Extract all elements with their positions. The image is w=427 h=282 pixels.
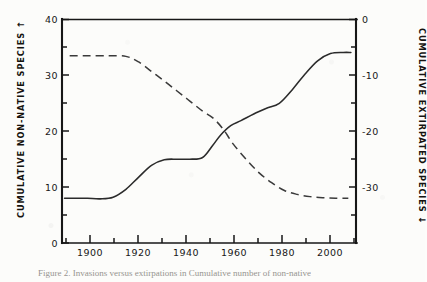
left-tick-label: 0 (52, 238, 58, 249)
right-tick-label: -10 (362, 70, 379, 81)
left-tick-label: 20 (45, 126, 58, 137)
up-arrow-icon: ↑ (16, 20, 26, 28)
left-tick-labels: 40 30 20 10 0 (45, 14, 58, 249)
series-line-extirpated (70, 56, 349, 199)
right-tick-label: -20 (362, 126, 379, 137)
axis-frame (62, 19, 357, 243)
left-axis-title-text: CUMULATIVE NON-NATIVE SPECIES (16, 32, 26, 218)
down-arrow-icon: ↓ (417, 216, 427, 224)
right-tick-label: -30 (362, 182, 379, 193)
x-tick-label: 1900 (77, 247, 103, 258)
right-axis-title: CUMULATIVE EXTIRPATED SPECIES ↓ (417, 28, 427, 218)
figure-caption: Figure 2. Invasions versus extirpations … (38, 268, 398, 281)
right-tick-labels: 0 -10 -20 -30 (362, 14, 379, 193)
x-tick-label: 2000 (317, 247, 343, 258)
x-tick-label: 1960 (221, 247, 247, 258)
x-tick-labels: 1900 1920 1940 1960 1980 2000 (77, 247, 343, 258)
series-layer (65, 52, 351, 199)
left-tick-label: 10 (45, 182, 58, 193)
right-tick-label: 0 (362, 14, 368, 25)
right-axis-title-text: CUMULATIVE EXTIRPATED SPECIES (417, 28, 427, 213)
x-tick-label: 1940 (173, 247, 199, 258)
x-tick-label: 1980 (269, 247, 295, 258)
x-tick-label: 1920 (125, 247, 151, 258)
left-axis-title: CUMULATIVE NON-NATIVE SPECIES ↑ (16, 28, 26, 218)
left-tick-label: 30 (45, 70, 58, 81)
series-line-non-native (65, 52, 351, 199)
left-tick-label: 40 (45, 14, 58, 25)
x-axis-ticks (66, 235, 354, 243)
